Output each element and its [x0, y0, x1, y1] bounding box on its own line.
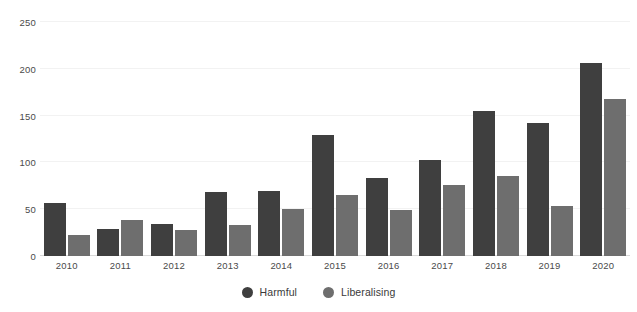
bar-liberalising-2015[interactable] — [336, 195, 358, 256]
circle-marker-icon — [242, 287, 253, 298]
bar-harmful-2020[interactable] — [580, 63, 602, 256]
x-axis-tick-label: 2014 — [270, 260, 292, 271]
x-axis-tick-label: 2016 — [378, 260, 400, 271]
bar-liberalising-2014[interactable] — [282, 209, 304, 256]
bar-liberalising-2018[interactable] — [497, 176, 519, 256]
circle-marker-icon — [323, 287, 334, 298]
bar-liberalising-2013[interactable] — [229, 225, 251, 256]
bar-harmful-2016[interactable] — [366, 178, 388, 256]
x-axis-tick-label: 2019 — [539, 260, 561, 271]
bar-harmful-2010[interactable] — [44, 203, 66, 256]
y-axis-tick-label: 150 — [2, 110, 36, 121]
bar-liberalising-2017[interactable] — [443, 185, 465, 256]
bar-liberalising-2012[interactable] — [175, 230, 197, 256]
bar-liberalising-2019[interactable] — [551, 206, 573, 256]
bar-harmful-2017[interactable] — [419, 160, 441, 256]
legend-label: Liberalising — [341, 286, 395, 298]
bar-liberalising-2010[interactable] — [68, 235, 90, 256]
legend-item-liberalising[interactable]: Liberalising — [323, 286, 395, 298]
bar-liberalising-2016[interactable] — [390, 210, 412, 256]
x-axis-tick-label: 2011 — [110, 260, 131, 271]
bar-harmful-2015[interactable] — [312, 135, 334, 256]
bar-harmful-2013[interactable] — [205, 192, 227, 256]
plot-area — [40, 22, 630, 256]
bar-harmful-2018[interactable] — [473, 111, 495, 256]
chart-legend: HarmfulLiberalising — [0, 286, 637, 298]
y-axis-tick-label: 0 — [2, 251, 36, 262]
legend-item-harmful[interactable]: Harmful — [242, 286, 297, 298]
x-axis-tick-label: 2020 — [592, 260, 614, 271]
legend-label: Harmful — [260, 286, 297, 298]
x-axis-tick-label: 2017 — [431, 260, 453, 271]
y-axis-tick-label: 100 — [2, 157, 36, 168]
bar-liberalising-2020[interactable] — [604, 99, 626, 256]
bar-harmful-2012[interactable] — [151, 224, 173, 256]
y-axis: 050100150200250 — [0, 22, 36, 256]
bars-layer — [40, 22, 630, 256]
y-axis-tick-label: 50 — [2, 204, 36, 215]
bar-harmful-2014[interactable] — [258, 191, 280, 256]
bar-harmful-2019[interactable] — [527, 123, 549, 256]
x-axis-tick-label: 2015 — [324, 260, 346, 271]
bar-harmful-2011[interactable] — [97, 229, 119, 256]
x-axis-tick-label: 2010 — [56, 260, 78, 271]
y-axis-tick-label: 250 — [2, 17, 36, 28]
x-axis-tick-label: 2012 — [163, 260, 185, 271]
y-axis-tick-label: 200 — [2, 63, 36, 74]
x-axis-tick-label: 2018 — [485, 260, 507, 271]
bar-liberalising-2011[interactable] — [121, 220, 143, 256]
x-axis: 2010201120122013201420152016201720182019… — [40, 260, 630, 276]
x-axis-tick-label: 2013 — [217, 260, 239, 271]
bar-chart: 050100150200250 201020112012201320142015… — [0, 0, 637, 312]
